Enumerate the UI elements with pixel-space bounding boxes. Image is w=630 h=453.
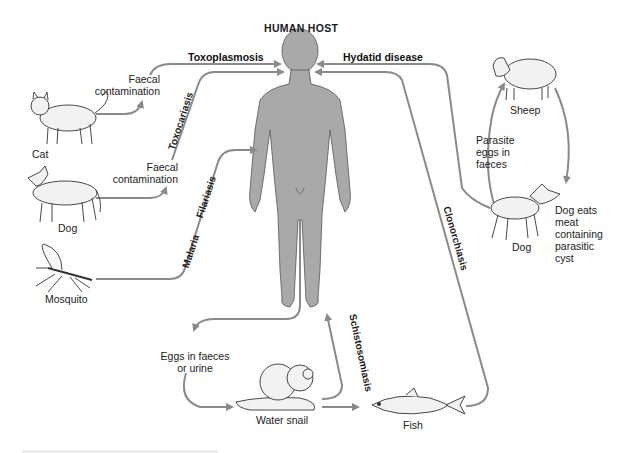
note-cat-faecal: Faecal contamination — [90, 73, 160, 97]
disease-toxoplasmosis: Toxoplasmosis — [188, 51, 264, 63]
cat-illustration — [31, 92, 108, 144]
note-parasite-eggs: Parasite eggs in faeces — [476, 134, 515, 170]
dog-right-illustration — [491, 184, 560, 240]
water-snail-illustration — [236, 364, 315, 410]
label-mosquito: Mosquito — [45, 293, 88, 305]
label-dog-right: Dog — [512, 241, 531, 253]
diagram-title: HUMAN HOST — [264, 22, 338, 34]
note-dog-eats-meat: Dog eats meat containing parasitic cyst — [555, 204, 603, 264]
note-eggs-faeces-urine: Eggs in faeces or urine — [150, 350, 240, 374]
note-dog-faecal: Faecal contamination — [108, 161, 178, 185]
mosquito-illustration — [36, 244, 92, 292]
diagram-graphics — [0, 0, 630, 453]
sheep-illustration — [493, 58, 556, 100]
label-water-snail: Water snail — [256, 414, 308, 426]
fish-illustration — [372, 388, 465, 414]
dog-left-illustration — [28, 166, 101, 222]
label-cat: Cat — [32, 148, 48, 160]
label-dog-left: Dog — [58, 222, 77, 234]
label-sheep: Sheep — [510, 104, 540, 116]
parasite-transmission-diagram: HUMAN HOST Cat Dog Mosquito Sheep Dog Wa… — [0, 0, 630, 453]
label-fish: Fish — [403, 419, 423, 431]
disease-hydatid: Hydatid disease — [343, 51, 423, 63]
